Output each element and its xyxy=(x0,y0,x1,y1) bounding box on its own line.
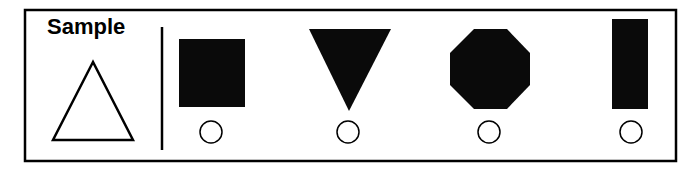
option-square-icon xyxy=(179,39,245,107)
option-4-radio[interactable] xyxy=(620,121,642,143)
option-2-radio[interactable] xyxy=(337,121,359,143)
option-rectangle-icon xyxy=(612,19,648,109)
option-3-radio[interactable] xyxy=(478,121,500,143)
option-1-radio[interactable] xyxy=(200,121,222,143)
option-octagon-icon xyxy=(450,29,530,109)
shape-matching-item: Sample xyxy=(0,0,699,171)
sample-label: Sample xyxy=(47,14,125,40)
